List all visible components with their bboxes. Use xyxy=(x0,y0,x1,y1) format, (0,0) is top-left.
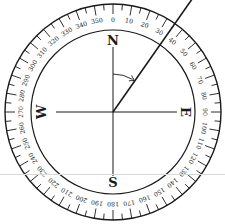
degree-tick xyxy=(59,197,64,206)
degree-tick xyxy=(44,29,50,37)
degree-tick xyxy=(19,161,28,166)
degree-tick xyxy=(172,196,175,201)
degree-tick xyxy=(156,204,159,209)
degree-tick xyxy=(76,11,79,20)
degree-label: 80 xyxy=(200,91,208,100)
degree-tick xyxy=(162,18,167,27)
degree-label: 0 xyxy=(111,16,115,23)
degree-tick xyxy=(104,214,105,220)
degree-tick xyxy=(7,93,17,95)
degree-tick xyxy=(215,103,221,104)
degree-tick xyxy=(7,129,17,131)
degree-tick xyxy=(9,138,15,140)
degree-tick xyxy=(59,18,64,27)
degree-tick xyxy=(19,58,28,63)
degree-tick xyxy=(37,36,41,40)
degree-tick xyxy=(212,84,218,86)
degree-tick xyxy=(67,14,70,19)
degree-label: 60 xyxy=(188,60,198,70)
degree-tick xyxy=(205,75,214,78)
cardinal-e: E xyxy=(178,107,193,117)
degree-label: 180 xyxy=(107,201,119,208)
degree-label: 250 xyxy=(20,137,31,151)
degree-tick xyxy=(162,197,167,206)
degree-label: 320 xyxy=(47,34,61,47)
cardinal-axes xyxy=(56,47,177,176)
degree-tick xyxy=(205,155,210,158)
degree-tick xyxy=(67,204,70,209)
degree-label: 120 xyxy=(187,152,199,166)
degree-tick xyxy=(156,14,159,19)
degree-label: 280 xyxy=(17,89,26,102)
cardinal-n: N xyxy=(107,33,119,48)
degree-tick xyxy=(12,146,21,149)
degree-label: 160 xyxy=(138,194,152,205)
degree-tick xyxy=(139,8,141,14)
degree-tick xyxy=(85,8,87,14)
degree-label: 290 xyxy=(20,73,31,87)
degree-tick xyxy=(37,184,41,188)
degree-label: 190 xyxy=(90,199,103,208)
degree-tick xyxy=(205,146,214,149)
degree-tick xyxy=(210,93,220,95)
degree-tick xyxy=(130,6,132,16)
degree-label: 70 xyxy=(196,75,205,85)
degree-tick xyxy=(15,66,20,69)
degree-tick xyxy=(205,66,210,69)
cardinal-s: S xyxy=(108,175,117,190)
degree-label: 110 xyxy=(195,137,206,151)
degree-tick xyxy=(122,214,123,220)
degree-label: 40 xyxy=(167,36,178,46)
degree-tick xyxy=(25,50,30,53)
degree-tick xyxy=(12,75,21,78)
degree-tick xyxy=(85,211,87,217)
degree-tick xyxy=(139,211,141,217)
degree-label: 300 xyxy=(27,59,39,73)
degree-label: 230 xyxy=(35,165,48,179)
degree-label: 330 xyxy=(60,26,74,38)
degree-tick xyxy=(76,204,79,213)
degree-tick xyxy=(198,161,207,166)
degree-tick xyxy=(5,103,11,104)
degree-tick xyxy=(30,43,38,49)
degree-label: 50 xyxy=(179,47,189,58)
degree-label: 310 xyxy=(35,45,48,59)
degree-tick xyxy=(51,24,54,29)
degree-tick xyxy=(210,129,220,131)
degree-tick xyxy=(94,209,96,219)
degree-label: 260 xyxy=(17,122,26,135)
degree-tick xyxy=(215,121,221,122)
degree-label: 10 xyxy=(125,16,134,24)
degree-tick xyxy=(5,121,11,122)
degree-tick xyxy=(176,187,182,195)
degree-tick xyxy=(197,50,202,53)
degree-label: 170 xyxy=(123,199,136,208)
degree-tick xyxy=(15,155,20,158)
degree-label: 100 xyxy=(200,122,209,135)
degree-tick xyxy=(147,11,150,20)
cardinal-w: W xyxy=(34,104,49,120)
degree-label: 150 xyxy=(153,186,167,198)
degree-tick xyxy=(147,204,150,213)
angle-arc xyxy=(113,74,133,79)
degree-tick xyxy=(51,196,54,201)
divider-line xyxy=(0,174,225,175)
degree-label: 20 xyxy=(140,20,150,29)
degree-tick xyxy=(44,187,50,195)
degree-tick xyxy=(185,184,189,188)
degree-label: 90 xyxy=(202,108,209,116)
degree-label: 30 xyxy=(154,27,164,37)
degree-tick xyxy=(9,84,15,86)
degree-label: 350 xyxy=(90,16,103,25)
degree-tick xyxy=(212,138,218,140)
degree-label: 270 xyxy=(17,106,24,118)
degree-label: 220 xyxy=(46,177,60,190)
degree-tick xyxy=(188,43,196,49)
degree-label: 210 xyxy=(60,186,74,198)
degree-tick xyxy=(122,4,123,10)
degree-tick xyxy=(30,175,38,181)
degree-tick xyxy=(104,4,105,10)
compass-rose: 0102030405060708090100110120130140150160… xyxy=(0,0,225,224)
degree-tick xyxy=(176,29,182,37)
degree-label: 240 xyxy=(27,152,39,166)
